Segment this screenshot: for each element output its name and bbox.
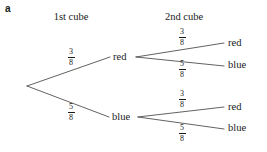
- leaf-red-then-blue: blue: [228, 59, 246, 71]
- leaf-blue-then-red: red: [228, 101, 241, 113]
- probability-blue-then-red: 3 8: [173, 90, 191, 109]
- probability-blue-then-blue: 5 8: [173, 124, 191, 143]
- probability-red-then-red: 3 8: [173, 28, 191, 47]
- node-first-cube-blue: blue: [112, 111, 130, 123]
- fraction-numerator: 5: [173, 124, 191, 133]
- fraction-numerator: 3: [173, 90, 191, 99]
- fraction-denominator: 8: [173, 39, 191, 48]
- stage-heading-first-cube: 1st cube: [40, 11, 102, 23]
- fraction-denominator: 8: [173, 101, 191, 110]
- fraction-numerator: 3: [173, 28, 191, 37]
- probability-first-red: 3 8: [62, 48, 80, 67]
- leaf-blue-then-blue: blue: [228, 122, 246, 134]
- fraction-denominator: 8: [173, 71, 191, 80]
- node-first-cube-red: red: [113, 51, 126, 63]
- fraction-denominator: 8: [173, 135, 191, 144]
- probability-red-then-blue: 5 8: [173, 60, 191, 79]
- stage-heading-second-cube: 2nd cube: [153, 11, 215, 23]
- fraction-numerator: 5: [173, 60, 191, 69]
- probability-tree-figure: a 1st cube 2nd cube red blue red blue re…: [0, 0, 267, 152]
- fraction-denominator: 8: [62, 114, 80, 123]
- probability-first-blue: 5 8: [62, 103, 80, 122]
- fraction-numerator: 5: [62, 103, 80, 112]
- fraction-numerator: 3: [62, 48, 80, 57]
- leaf-red-then-red: red: [228, 37, 241, 49]
- panel-label: a: [5, 3, 11, 15]
- fraction-denominator: 8: [62, 59, 80, 68]
